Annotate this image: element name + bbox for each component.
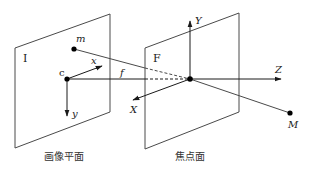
image-point-m-dot [71,46,76,51]
focal-plane-caption: 焦点面 [175,150,205,162]
pinhole-camera-diagram: I F m c M x y f Y Z X 画像平面 焦点面 [0,0,312,170]
camera-Z-label: Z [274,64,283,75]
image-x-label: x [91,55,97,66]
image-plane [15,14,110,148]
principal-point-c-dot [64,76,69,81]
optical-center-dot [187,76,193,82]
focal-plane [145,13,239,149]
image-plane-label: I [23,52,27,65]
image-y-label: y [71,108,78,119]
world-point-label: M [287,119,299,130]
image-x-axis-arrow [67,66,102,79]
x-axis-arrow [133,79,190,100]
projection-ray-dashed [145,68,190,79]
camera-X-label: X [129,104,138,115]
principal-point-label: c [59,67,65,78]
camera-Y-label: Y [195,15,203,26]
focal-plane-label: F [153,52,161,65]
image-point-label: m [76,33,85,44]
projection-ray-world [190,79,290,113]
world-point-M-dot [287,110,292,115]
image-plane-caption: 画像平面 [44,151,84,162]
focal-length-label: f [119,67,126,78]
